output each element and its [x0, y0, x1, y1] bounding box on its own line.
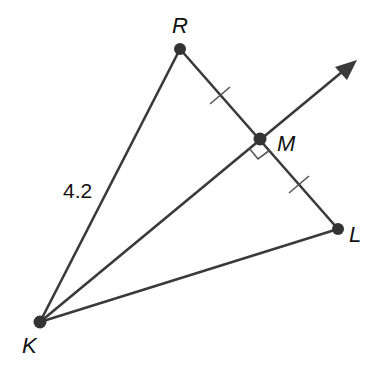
point-l	[332, 223, 344, 235]
point-r	[174, 43, 186, 55]
arrowhead-icon	[335, 60, 357, 80]
geometry-diagram: R M L K 4.2	[0, 0, 374, 392]
point-k	[34, 316, 47, 329]
segment-kr	[40, 49, 180, 322]
point-m	[254, 133, 267, 146]
label-m: M	[277, 131, 296, 156]
segment-kl	[40, 229, 338, 322]
label-r: R	[172, 13, 188, 38]
length-label-kr: 4.2	[63, 179, 92, 202]
label-l: L	[349, 222, 361, 247]
label-k: K	[22, 333, 38, 358]
